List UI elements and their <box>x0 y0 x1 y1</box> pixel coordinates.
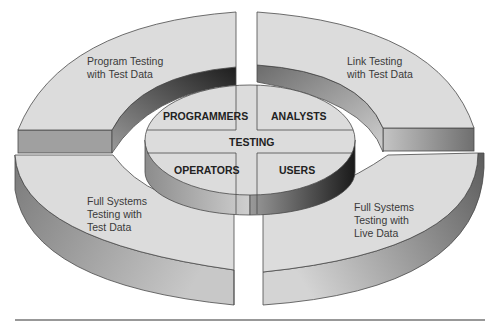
testing-ring-diagram: Program Testing with Test Data Link Test… <box>0 0 491 327</box>
role-analysts: ANALYSTS <box>271 110 327 122</box>
role-operators: OPERATORS <box>174 164 240 176</box>
role-programmers: PROGRAMMERS <box>163 110 248 122</box>
label-link-testing: Link Testing with Test Data <box>346 55 413 80</box>
center-label-testing: TESTING <box>229 136 275 148</box>
role-users: USERS <box>279 164 315 176</box>
center-disk <box>145 85 355 215</box>
